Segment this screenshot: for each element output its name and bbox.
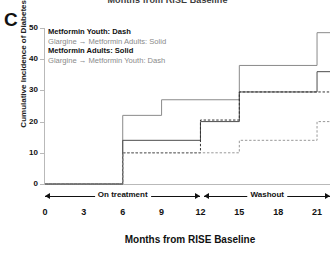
series-metformin-youth [45, 92, 330, 184]
washout-arrow-right [325, 193, 330, 199]
series-glargine-metformin-adults [45, 33, 330, 184]
on-treatment-arrow-left [45, 193, 50, 199]
step-curves [0, 0, 335, 257]
annotation-on-treatment: On treatment [45, 190, 200, 204]
washout-label: Washout [247, 190, 286, 199]
annotation-washout: Washout [204, 190, 330, 204]
washout-arrow-left [204, 193, 209, 199]
on-treatment-arrow-right [195, 193, 200, 199]
series-metformin-adults [45, 72, 330, 184]
on-treatment-label: On treatment [95, 190, 151, 199]
figure-panel-c: Months from RISE Baseline C Cumulative I… [0, 0, 335, 257]
series-glargine-metformin-youth [45, 122, 330, 184]
